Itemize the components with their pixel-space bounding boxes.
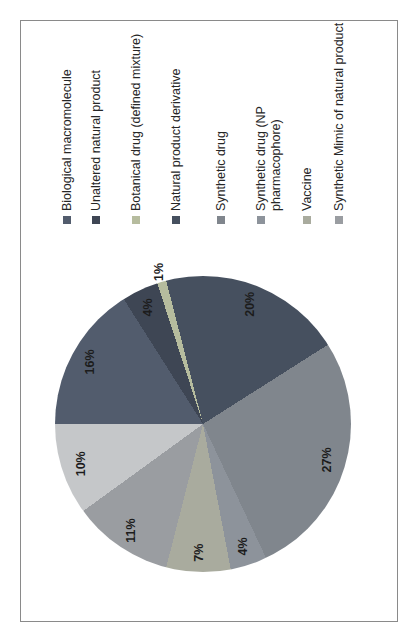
legend-label: Synthetic drug [214, 131, 229, 211]
pie-figure: 16%4%1%20%27%4%7%11%10% Biological macro… [0, 0, 408, 638]
legend-item: Synthetic Mimic of natural product [332, 23, 347, 224]
legend-item: Synthetic drug (NPpharmacophore) [254, 106, 284, 224]
legend-item: Natural product derivative [169, 69, 184, 224]
legend-item: Vaccine [300, 167, 315, 224]
slice-label: 1% [152, 263, 166, 281]
slice-label: 10% [74, 451, 88, 476]
slice-label: 20% [243, 292, 257, 317]
legend-label: Botanical drug (defined mixture) [129, 34, 144, 211]
legend-swatch [257, 216, 265, 224]
legend-label: Biological macromolecule [60, 69, 75, 211]
legend-item: Unaltered natural product [89, 70, 104, 224]
slice-label: 11% [124, 518, 138, 542]
legend-label: Natural product derivative [169, 69, 184, 211]
slice-label: 4% [141, 298, 155, 316]
legend-swatch [63, 216, 71, 224]
figure-canvas: 16%4%1%20%27%4%7%11%10% Biological macro… [0, 0, 408, 638]
legend-swatch [335, 216, 343, 224]
pie-chart [55, 276, 351, 572]
slice-label: 27% [320, 447, 334, 472]
slice-label: 16% [83, 349, 97, 374]
legend-item: Biological macromolecule [60, 69, 75, 224]
slice-label: 4% [236, 537, 250, 555]
legend-swatch [217, 216, 225, 224]
legend-label: Synthetic Mimic of natural product [332, 23, 347, 211]
legend-swatch [92, 216, 100, 224]
legend-item: Synthetic drug [214, 131, 229, 224]
legend-swatch [303, 216, 311, 224]
legend-label: Synthetic drug (NPpharmacophore) [254, 106, 284, 211]
legend-item: Botanical drug (defined mixture) [129, 34, 144, 224]
legend-swatch [172, 216, 180, 224]
legend-swatch [132, 216, 140, 224]
legend-label: Unaltered natural product [89, 70, 104, 211]
legend-label: Vaccine [300, 167, 315, 211]
slice-label: 7% [192, 544, 206, 562]
